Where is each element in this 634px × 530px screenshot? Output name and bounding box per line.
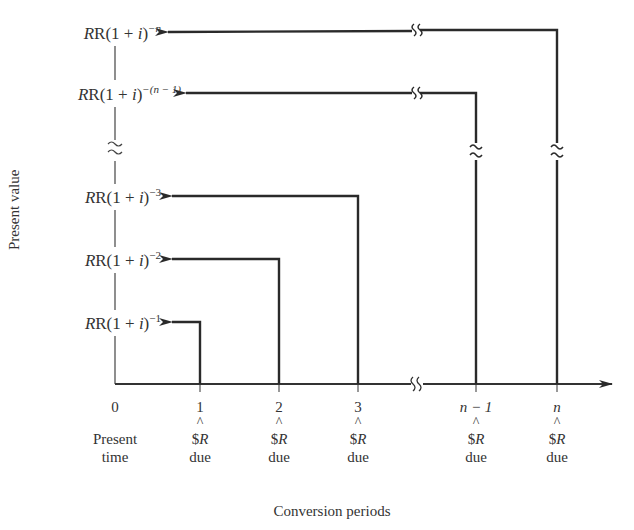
tick-value: 3 — [328, 398, 388, 416]
discount-path-1 — [172, 322, 200, 384]
label-exponent: −3 — [149, 186, 161, 198]
label-exponent: −1 — [149, 312, 161, 324]
tick-1: 1 ^ $R due — [170, 398, 230, 466]
discount-path-n-minus-1 — [186, 87, 482, 384]
payment-var: R — [278, 431, 287, 447]
row-label-n: RR(1 + i)−n — [84, 22, 161, 44]
payment-amount: $R — [446, 430, 506, 448]
spacer — [85, 416, 145, 430]
tick-value: n — [527, 398, 587, 416]
tick-note: due — [249, 448, 309, 466]
payment-var: R — [475, 431, 484, 447]
x-axis — [115, 377, 612, 392]
row-label-2: RR(1 + i)−2 — [85, 249, 161, 271]
tick-0: 0 Present time — [85, 398, 145, 466]
x-axis-label-text: Conversion periods — [273, 503, 390, 519]
tick-value: n − 1 — [446, 398, 506, 416]
tick-note: due — [446, 448, 506, 466]
payment-var: R — [556, 431, 565, 447]
tick-note-2: time — [85, 448, 145, 466]
label-base: R(1 + — [88, 85, 132, 104]
label-exponent: −(n − 1) — [142, 83, 181, 95]
payment-amount: $R — [328, 430, 388, 448]
label-base: R(1 + — [94, 24, 138, 43]
label-base: R(1 + — [95, 188, 139, 207]
y-axis-label: Present value — [6, 170, 23, 250]
payment-amount: $R — [249, 430, 309, 448]
tick-note: due — [527, 448, 587, 466]
row-label-3: RR(1 + i)−3 — [85, 186, 161, 208]
payment-amount: $R — [527, 430, 587, 448]
tick-n: n ^ $R due — [527, 398, 587, 466]
label-base: R(1 + — [95, 314, 139, 333]
payment-var: R — [199, 431, 208, 447]
discount-path-n — [168, 24, 563, 384]
tick-note: Present — [85, 430, 145, 448]
tick-note: due — [328, 448, 388, 466]
row-label-n-minus-1: RR(1 + i)−(n − 1) — [78, 83, 181, 105]
tick-n-minus-1: n − 1 ^ $R due — [446, 398, 506, 466]
caret-icon: ^ — [170, 416, 230, 430]
label-base: R(1 + — [95, 251, 139, 270]
payment-var: R — [357, 431, 366, 447]
tick-3: 3 ^ $R due — [328, 398, 388, 466]
caret-icon: ^ — [527, 416, 587, 430]
row-label-1: RR(1 + i)−1 — [85, 312, 161, 334]
x-axis-label: Conversion periods — [0, 503, 634, 520]
label-exponent: −2 — [149, 249, 161, 261]
caret-icon: ^ — [446, 416, 506, 430]
tick-value: 1 — [170, 398, 230, 416]
tick-value: 2 — [249, 398, 309, 416]
tick-value: 0 — [85, 398, 145, 416]
annuity-present-value-diagram: RR(1 + i)−n RR(1 + i)−(n − 1) RR(1 + i)−… — [0, 0, 634, 530]
payment-amount: $R — [170, 430, 230, 448]
tick-2: 2 ^ $R due — [249, 398, 309, 466]
caret-icon: ^ — [328, 416, 388, 430]
caret-icon: ^ — [249, 416, 309, 430]
label-exponent: −n — [148, 22, 161, 34]
tick-note: due — [170, 448, 230, 466]
